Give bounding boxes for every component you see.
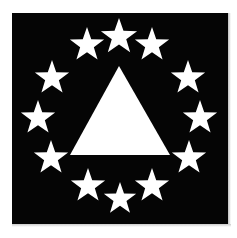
image-canvas [0, 0, 237, 238]
page-edge-bottom [12, 224, 231, 227]
star-1 [101, 18, 137, 52]
star-4 [35, 60, 69, 93]
page-edge-right [228, 13, 231, 224]
star-3 [135, 27, 169, 60]
flag-emblem [12, 13, 228, 224]
star-2 [70, 27, 104, 60]
star-8 [34, 140, 68, 173]
flag-field [12, 13, 228, 224]
star-10 [71, 168, 105, 201]
star-7 [183, 100, 217, 133]
star-5 [171, 60, 205, 93]
star-11 [135, 168, 169, 201]
star-12 [104, 182, 136, 213]
star-6 [21, 100, 55, 133]
pyramid-triangle [70, 66, 170, 155]
star-9 [172, 140, 206, 173]
